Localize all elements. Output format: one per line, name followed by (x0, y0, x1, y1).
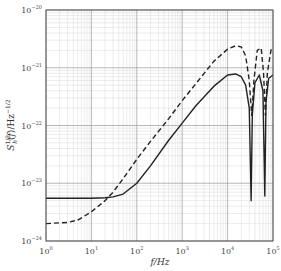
y-tick-label: 10−24 (21, 235, 42, 246)
y-axis-label: S1/2h(f)/Hz−1/2 (4, 99, 18, 151)
x-tick-label: 101 (85, 245, 98, 256)
x-tick-label: 100 (39, 245, 52, 256)
series-layer (46, 46, 273, 224)
series-dashed-line (46, 46, 273, 224)
svg-text:S1/2h(f)/Hz−1/2: S1/2h(f)/Hz−1/2 (4, 99, 18, 151)
chart: 100101102103104105 10−2010−2110−2210−231… (0, 0, 281, 271)
x-tick-labels: 100101102103104105 (39, 245, 279, 256)
y-tick-label: 10−22 (21, 120, 42, 131)
x-tick-label: 103 (176, 245, 189, 256)
series-solid-line (46, 74, 273, 201)
y-tick-labels: 10−2010−2110−2210−2310−24 (21, 4, 42, 246)
y-tick-label: 10−21 (21, 62, 42, 73)
y-tick-label: 10−20 (21, 4, 42, 15)
x-tick-label: 105 (266, 245, 279, 256)
x-tick-label: 102 (130, 245, 143, 256)
y-tick-label: 10−23 (21, 177, 42, 188)
x-tick-label: 104 (221, 245, 234, 256)
x-axis-label: f/Hz (150, 257, 170, 267)
